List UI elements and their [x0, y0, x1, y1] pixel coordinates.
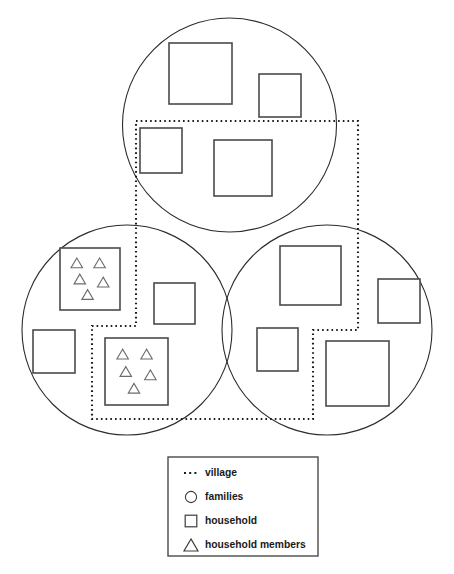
household-right-3	[257, 328, 298, 371]
household-square	[280, 246, 341, 305]
legend-label-household: household	[205, 515, 257, 526]
household-square	[154, 283, 195, 324]
household-left-2	[154, 283, 195, 324]
household-right-2	[378, 279, 420, 323]
schematic-diagram: village families household household mem…	[0, 0, 454, 574]
household-left-1	[60, 248, 120, 310]
legend: village families household household mem…	[168, 457, 318, 556]
household-square	[105, 338, 168, 405]
household-square	[60, 248, 120, 310]
legend-label-families: families	[205, 491, 244, 502]
household-square	[33, 330, 75, 373]
household-square	[140, 128, 182, 173]
household-square	[259, 74, 301, 117]
legend-label-village: village	[205, 467, 237, 478]
household-square	[214, 140, 272, 196]
diagram-stage: village families household household mem…	[0, 0, 454, 574]
legend-label-household-members: household members	[205, 539, 306, 550]
household-square	[378, 279, 420, 323]
household-square	[326, 341, 389, 406]
household-top-1	[169, 43, 232, 104]
household-right-4	[326, 341, 389, 406]
household-square	[257, 328, 298, 371]
household-top-2	[259, 74, 301, 117]
household-top-3	[140, 128, 182, 173]
household-right-1	[280, 246, 341, 305]
household-top-4	[214, 140, 272, 196]
household-left-3	[33, 330, 75, 373]
household-square	[169, 43, 232, 104]
household-left-4	[105, 338, 168, 405]
households-layer	[33, 43, 420, 406]
